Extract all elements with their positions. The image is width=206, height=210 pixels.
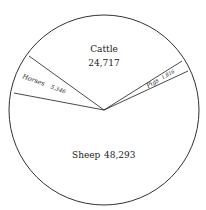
label-sheep-value: 48,293 <box>104 150 136 160</box>
label-cattle-name: Cattle <box>90 44 118 54</box>
pie-chart: Cattle 24,717 Horses 5,346 Pigs 1,816 Sh… <box>0 0 206 210</box>
label-sheep-name: Sheep <box>72 150 101 160</box>
label-cattle-value: 24,717 <box>88 58 120 68</box>
